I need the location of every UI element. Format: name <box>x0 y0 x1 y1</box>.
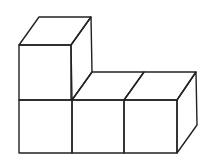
bottom-row-front-faces <box>19 100 177 153</box>
bottom-cube-3-top-face <box>124 72 196 100</box>
bottom-cube-2-front-face <box>72 100 124 153</box>
cube-arrangement-diagram <box>0 0 209 164</box>
bottom-row-top-faces <box>72 72 196 100</box>
bottom-cube-3-front-face <box>124 100 177 153</box>
bottom-cube-3-right-face <box>177 72 197 153</box>
top-cube-front-face <box>19 45 71 100</box>
bottom-cube-1-front-face <box>19 100 72 153</box>
